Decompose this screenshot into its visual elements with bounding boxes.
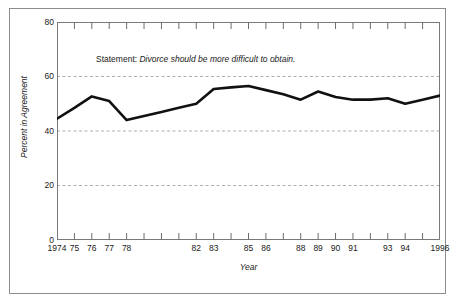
- y-tick-label: 60: [28, 72, 54, 81]
- bottom-axis: [57, 233, 440, 240]
- y-axis-tick-labels: 020406080: [26, 22, 54, 240]
- y-tick-label: 20: [28, 181, 54, 190]
- x-tick-label: 83: [209, 243, 218, 253]
- x-tick-label: 1996: [431, 243, 450, 253]
- x-tick-label: 77: [104, 243, 113, 253]
- y-tick-label: 40: [28, 127, 54, 136]
- top-axis: [57, 22, 440, 29]
- annotation-statement: Divorce should be more difficult to obta…: [139, 54, 295, 64]
- x-tick-label: 93: [383, 243, 392, 253]
- x-axis-title: Year: [57, 262, 440, 272]
- data-series-line: [57, 86, 440, 120]
- x-tick-label: 88: [296, 243, 305, 253]
- x-tick-label: 91: [348, 243, 357, 253]
- gridlines: [57, 77, 440, 186]
- x-axis-tick-labels: 197475767778828385868889909193941996: [57, 243, 440, 255]
- x-tick-label: 76: [87, 243, 96, 253]
- x-tick-label: 1974: [48, 243, 67, 253]
- y-axis-title: Percent in Agreement: [19, 62, 29, 172]
- x-tick-label: 82: [192, 243, 201, 253]
- x-tick-label: 89: [313, 243, 322, 253]
- annotation-lead: Statement:: [96, 54, 137, 64]
- x-tick-label: 94: [400, 243, 409, 253]
- statement-annotation: Statement: Divorce should be more diffic…: [96, 54, 295, 64]
- chart-figure: 020406080 Percent in Agreement Statement…: [0, 0, 455, 305]
- x-tick-label: 90: [331, 243, 340, 253]
- x-tick-label: 85: [244, 243, 253, 253]
- x-tick-label: 78: [122, 243, 131, 253]
- x-tick-label: 86: [261, 243, 270, 253]
- x-tick-label: 75: [70, 243, 79, 253]
- y-tick-label: 80: [28, 18, 54, 27]
